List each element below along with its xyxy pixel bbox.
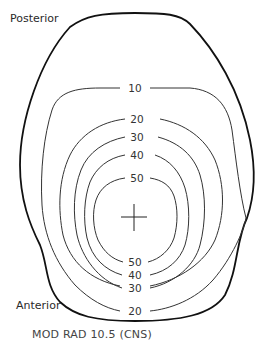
isodose-50-label-top: 50 — [130, 172, 143, 184]
isodose-20-label-bottom: 20 — [128, 305, 141, 317]
isodose-20-label-top: 20 — [130, 113, 143, 125]
isodose-10-contour — [41, 88, 246, 311]
isodose-40-label-top: 40 — [130, 149, 143, 161]
isodose-10-label-top: 10 — [128, 82, 141, 94]
isodose-diagram: 10 20 30 40 50 50 40 30 20 — [0, 0, 263, 351]
isodose-30-label-top: 30 — [130, 131, 143, 143]
isodose-40-label-bottom: 40 — [128, 269, 141, 281]
isodose-50-label-bottom: 50 — [128, 256, 141, 268]
isodose-50-contour — [94, 178, 177, 262]
isodose-30-label-bottom: 30 — [128, 282, 141, 294]
crosshair-icon — [121, 204, 147, 231]
